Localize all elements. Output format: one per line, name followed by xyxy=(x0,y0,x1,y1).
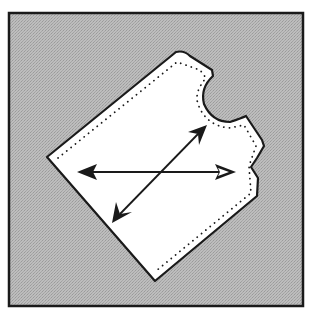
illustration-canvas xyxy=(0,0,314,316)
